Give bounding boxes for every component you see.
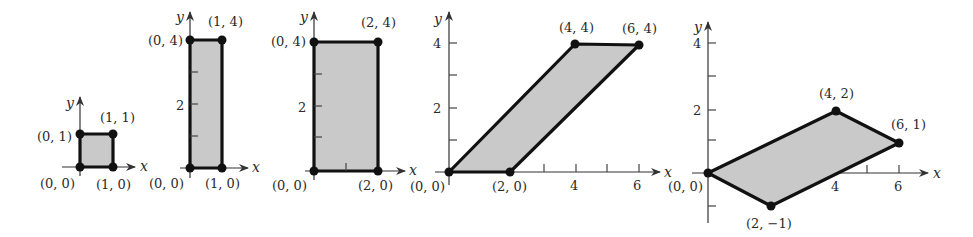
vertex-dot (218, 164, 227, 173)
y-tick-label: 4 (433, 36, 441, 51)
vertex-dot (571, 40, 580, 49)
vertex-label: (1, 0) (96, 177, 131, 192)
figure-vertical-stretch: x y 2 (0, 0) (1, 0) (1, 4) (0, 4) (148, 9, 260, 191)
figure-shear-parallelogram: x y 4 2 4 6 (0, 0) (2, 0) (6, 4) (4, 4) (410, 11, 672, 194)
vertex-label: (2, 4) (361, 15, 396, 30)
figure-rectangle-2x4: x y 2 (0, 0) (2, 0) (2, 4) (0, 4) (271, 9, 417, 193)
x-axis-label: x (409, 162, 417, 178)
x-axis-label: x (140, 158, 148, 174)
vertex-dot (186, 36, 195, 45)
vertex-dot (109, 163, 118, 172)
y-tick-label: 2 (176, 98, 184, 113)
y-axis-label: y (693, 19, 703, 35)
vertex-label: (2, 0) (492, 179, 527, 194)
vertex-dot (767, 202, 776, 211)
y-tick-label: 2 (298, 100, 306, 115)
vertex-label: (4, 2) (819, 86, 854, 101)
vertex-label: (6, 1) (891, 117, 926, 132)
vertex-dot (310, 167, 319, 176)
figures-canvas: x y (0, 0) (1, 0) (1, 1) (0, 1) x y 2 (0… (0, 0, 973, 237)
vertex-dot (218, 36, 227, 45)
x-tick-label: 6 (633, 178, 641, 193)
vertex-dot (76, 163, 85, 172)
vertex-label: (6, 4) (622, 21, 657, 36)
vertex-label: (4, 4) (559, 20, 594, 35)
x-axis-label: x (664, 164, 672, 180)
figure-rotated-parallelogram: x y 4 2 4 6 (0, 0) (2, −1) (6, 1) (4, 2) (668, 19, 941, 231)
y-tick-label: 4 (693, 36, 701, 51)
vertex-label: (0, 0) (410, 179, 445, 194)
vertex-dot (832, 107, 841, 116)
vertex-dot (186, 164, 195, 173)
vertex-label: (0, 0) (668, 179, 703, 194)
vertex-label: (1, 1) (100, 110, 135, 125)
vertex-label: (2, −1) (746, 216, 792, 231)
vertex-dot (704, 169, 713, 178)
vertex-label: (0, 4) (271, 34, 306, 49)
vertex-label: (1, 4) (208, 14, 243, 29)
vertex-dot (445, 168, 454, 177)
vertex-label: (0, 0) (149, 176, 184, 191)
y-axis-label: y (299, 9, 309, 25)
x-tick-label: 6 (894, 179, 902, 194)
vertex-label: (0, 0) (272, 178, 307, 193)
vertex-dot (374, 38, 383, 47)
vertex-label: (0, 0) (40, 176, 75, 191)
vertex-label: (0, 4) (148, 33, 183, 48)
x-axis-label: x (252, 159, 260, 175)
vertex-dot (895, 139, 904, 148)
vertex-label: (1, 0) (205, 176, 240, 191)
unit-square-shape (80, 134, 113, 167)
parallelogram-shape (449, 44, 639, 172)
y-axis-label: y (65, 95, 75, 111)
vertex-dot (506, 168, 515, 177)
y-axis-label: y (175, 9, 185, 25)
y-axis-label: y (433, 11, 443, 27)
x-tick-label: 4 (570, 178, 578, 193)
y-tick-label: 2 (693, 103, 701, 118)
vertex-dot (635, 41, 644, 50)
vertex-label: (0, 1) (37, 129, 72, 144)
vertex-dot (310, 38, 319, 47)
vertex-dot (374, 167, 383, 176)
vertex-label: (2, 0) (358, 178, 393, 193)
vertex-dot (109, 130, 118, 139)
figure-unit-square: x y (0, 0) (1, 0) (1, 1) (0, 1) (37, 95, 148, 192)
x-tick-label: 4 (831, 179, 839, 194)
rectangle-shape (314, 42, 378, 171)
vertex-dot (76, 130, 85, 139)
x-axis-label: x (933, 165, 941, 181)
parallelogram-shape (708, 111, 899, 206)
y-tick-label: 2 (433, 101, 441, 116)
